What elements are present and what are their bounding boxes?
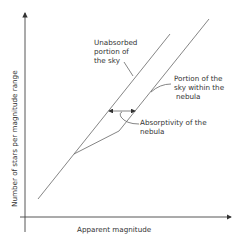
unabsorbed-label-3: the sky <box>94 56 121 65</box>
wolf-diagram: Number of stars per magnitude range Appa… <box>0 0 243 242</box>
x-axis-label: Apparent magnitude <box>77 225 152 234</box>
unabsorbed-label-2: portion of <box>94 47 129 56</box>
nebula-label-3: nebula <box>176 92 201 101</box>
absorptivity-label-1: Absorptivity of the <box>140 118 207 127</box>
unabsorbed-leader <box>124 62 133 76</box>
unabsorbed-label-1: Unabsorbed <box>94 38 137 47</box>
nebula-label-2: sky within the <box>174 83 225 92</box>
absorptivity-label-2: nebula <box>140 127 165 136</box>
nebula-label-1: Portion of the <box>174 74 223 83</box>
y-axis-label: Number of stars per magnitude range <box>10 70 19 207</box>
